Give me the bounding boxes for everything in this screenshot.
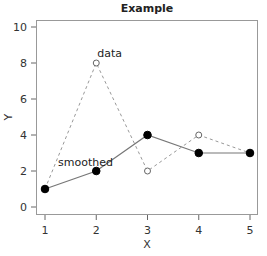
chart: Example 0246810 12345 X Y datasmoothed [0,0,267,256]
y-axis: 0246810 [13,21,36,214]
annotation-data: data [97,47,122,60]
y-tick-label: 8 [20,57,27,70]
data-point [196,132,202,138]
x-tick-label: 5 [247,224,254,237]
x-axis: 12345 [42,215,254,237]
plot-frame [37,21,258,215]
annotations: datasmoothed [58,47,122,169]
y-tick-label: 4 [20,129,27,142]
data-point [195,149,203,157]
y-tick-label: 0 [20,201,27,214]
y-tick-label: 2 [20,165,27,178]
x-axis-label: X [143,238,151,251]
annotation-smoothed: smoothed [58,156,113,169]
series-data [42,60,253,192]
y-tick-label: 10 [13,21,27,34]
data-point [144,131,152,139]
data-point [145,168,151,174]
data-point [93,60,99,66]
x-tick-label: 4 [195,224,202,237]
data-point [41,185,49,193]
y-axis-label: Y [2,113,15,121]
x-tick-label: 2 [93,224,100,237]
y-tick-label: 6 [20,93,27,106]
x-tick-label: 3 [144,224,151,237]
x-tick-label: 1 [42,224,49,237]
data-point [246,149,254,157]
chart-title: Example [121,2,174,15]
